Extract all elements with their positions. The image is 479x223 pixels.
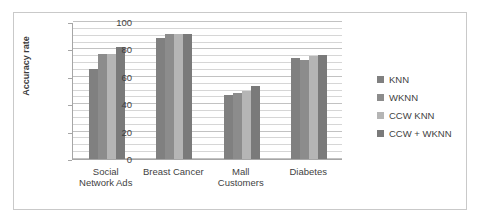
- bar: [233, 93, 242, 159]
- y-axis-tick-label: 0: [92, 155, 132, 165]
- legend-swatch-icon: [377, 130, 384, 137]
- y-axis-tick-label: 100: [92, 18, 132, 28]
- bar-group: [276, 23, 344, 159]
- y-axis-tick-label: 20: [92, 128, 132, 138]
- x-axis-category-label: Diabetes: [263, 166, 355, 177]
- legend-item[interactable]: CCW + WKNN: [377, 124, 472, 142]
- y-axis-tick-label: 40: [92, 100, 132, 110]
- legend-label: WKNN: [389, 92, 418, 103]
- bar: [174, 34, 183, 159]
- legend-label: CCW + WKNN: [389, 128, 452, 139]
- y-axis-tick-label: 60: [92, 73, 132, 83]
- y-axis-tick-mark: [68, 23, 72, 24]
- y-axis-title: Accuracy rate: [21, 6, 31, 126]
- legend-item[interactable]: WKNN: [377, 88, 472, 106]
- legend-swatch-icon: [377, 94, 384, 101]
- legend-item[interactable]: CCW KNN: [377, 106, 472, 124]
- plot-area: [72, 23, 342, 160]
- bar: [309, 56, 318, 159]
- legend-label: KNN: [389, 74, 409, 85]
- bar: [300, 60, 309, 159]
- legend-label: CCW KNN: [389, 110, 434, 121]
- bar-group: [208, 23, 276, 159]
- bar: [156, 38, 165, 159]
- bar: [242, 91, 251, 160]
- y-axis-tick-mark: [68, 160, 72, 161]
- bar: [251, 86, 260, 159]
- legend-swatch-icon: [377, 112, 384, 119]
- chart-legend: KNNWKNNCCW KNNCCW + WKNN: [377, 70, 472, 142]
- bar: [165, 34, 174, 159]
- chart-container: Accuracy rate 020406080100 Social Networ…: [13, 12, 467, 210]
- y-axis-tick-mark: [68, 50, 72, 51]
- bar: [224, 95, 233, 159]
- y-axis-tick-mark: [68, 133, 72, 134]
- bar-group: [141, 23, 209, 159]
- legend-swatch-icon: [377, 76, 384, 83]
- y-axis-tick-mark: [68, 78, 72, 79]
- bar: [291, 58, 300, 159]
- bars-layer: [73, 23, 342, 159]
- y-axis-tick-mark: [68, 105, 72, 106]
- y-axis-tick-label: 80: [92, 45, 132, 55]
- bar-group: [73, 23, 141, 159]
- legend-item[interactable]: KNN: [377, 70, 472, 88]
- bar: [183, 34, 192, 159]
- bar: [318, 55, 327, 159]
